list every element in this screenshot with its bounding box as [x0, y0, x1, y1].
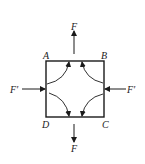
- corner-label-c: C: [102, 119, 109, 130]
- force-label-bottom: F: [70, 143, 78, 154]
- curve-arrow-bottom-left: [49, 93, 69, 116]
- force-label-top: F: [70, 21, 78, 32]
- force-label-right: F′: [126, 84, 136, 95]
- curve-arrow-bottom-right: [82, 94, 103, 116]
- curve-arrow-top-left: [47, 62, 69, 84]
- curve-arrow-top-right: [82, 62, 103, 83]
- corner-label-d: D: [41, 119, 50, 130]
- square-element: [46, 61, 104, 117]
- force-diagram: A B D C F F F′ F′: [0, 0, 145, 164]
- corner-label-b: B: [101, 50, 107, 61]
- force-label-left: F′: [9, 84, 19, 95]
- corner-label-a: A: [42, 50, 50, 61]
